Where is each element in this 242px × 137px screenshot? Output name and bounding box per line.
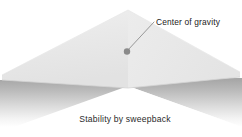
figure-root: Center of gravity Stability by sweepback xyxy=(0,0,242,137)
center-of-gravity-label: Center of gravity xyxy=(156,17,221,27)
sweepback-stability-diagram: Center of gravity Stability by sweepback xyxy=(0,0,242,137)
center-of-gravity-dot xyxy=(124,48,130,54)
figure-caption: Stability by sweepback xyxy=(79,114,171,124)
